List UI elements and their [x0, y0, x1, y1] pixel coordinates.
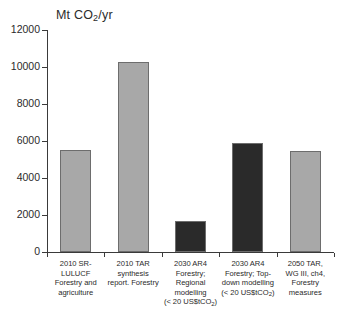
bar-1 [60, 150, 91, 252]
bar-3 [175, 221, 206, 252]
chart-title-prefix: Mt CO [56, 8, 93, 22]
x-tick-mark [162, 253, 163, 257]
x-axis-label-line: Forestry [273, 278, 338, 288]
bar-5 [290, 151, 321, 252]
x-axis-label-line: WG III, ch4, [273, 269, 338, 279]
x-axis-label-1: 2010 SR-LULUCFForestry andagriculture [43, 259, 108, 297]
x-axis-labels: 2010 SR-LULUCFForestry andagriculture201… [47, 259, 334, 317]
y-tick-label: 12000 [0, 24, 40, 35]
x-axis-label-line: (< 20 US$tCO2) [215, 288, 280, 299]
y-tick-label: 6000 [0, 135, 40, 146]
x-axis-label-line: Regional [158, 278, 223, 288]
x-axis-label-line: synthesis [100, 269, 165, 279]
x-tick-mark [104, 253, 105, 257]
x-axis-label-line: (< 20 US$tCO2) [158, 297, 223, 308]
x-axis-label-line: 2030 AR4 [158, 259, 223, 269]
x-axis-label-line: Forestry and [43, 278, 108, 288]
bar-chart: Mt CO2/yr 020004000600080001000012000 20… [0, 0, 344, 319]
x-axis-label-4: 2030 AR4Forestry; Top-down modelling(< 2… [215, 259, 280, 298]
x-axis-label-5: 2050 TAR,WG III, ch4,Forestrymeasures [273, 259, 338, 297]
x-axis-label-line: 2050 TAR, [273, 259, 338, 269]
plot-area [47, 30, 334, 252]
bar-2 [118, 62, 149, 252]
chart-title: Mt CO2/yr [56, 8, 113, 22]
x-axis-label-line: Forestry; [158, 269, 223, 279]
x-axis-label-line: 2010 SR- [43, 259, 108, 269]
x-axis-label-line: measures [273, 288, 338, 298]
x-axis-label-3: 2030 AR4Forestry;Regionalmodelling(< 20 … [158, 259, 223, 308]
chart-title-suffix: /yr [98, 8, 113, 22]
bar-4 [232, 143, 263, 252]
y-tick-label: 2000 [0, 209, 40, 220]
x-tick-mark [277, 253, 278, 257]
x-axis-label-line: LULUCF [43, 269, 108, 279]
y-tick-label: 10000 [0, 61, 40, 72]
x-axis-label-line: modelling [158, 288, 223, 298]
x-axis-label-line: 2030 AR4 [215, 259, 280, 269]
x-tick-mark [219, 253, 220, 257]
x-axis-label-2: 2010 TARsynthesisreport. Forestry [100, 259, 165, 288]
y-tick-label: 0 [0, 246, 40, 257]
x-axis-label-line: down modelling [215, 278, 280, 288]
x-axis-label-line: report. Forestry [100, 278, 165, 288]
x-tick-mark [334, 253, 335, 257]
x-tick-mark [47, 253, 48, 257]
x-axis-line [47, 252, 334, 253]
chart-title-subscript: 2 [93, 13, 98, 23]
y-tick-label: 4000 [0, 172, 40, 183]
x-axis-label-line: agriculture [43, 288, 108, 298]
y-tick-label: 8000 [0, 98, 40, 109]
x-axis-label-line: 2010 TAR [100, 259, 165, 269]
x-axis-label-line: Forestry; Top- [215, 269, 280, 279]
